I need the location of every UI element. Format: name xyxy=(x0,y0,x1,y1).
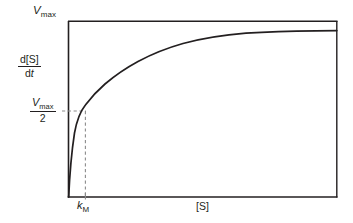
michaelis-menten-figure: Vmax d[S] dt Vmax 2 kM [S] xyxy=(0,0,353,223)
y-axis-title: d[S] dt xyxy=(18,54,41,78)
vmax-subscript: max xyxy=(41,10,56,19)
reference-lines xyxy=(62,111,86,200)
y-axis-half-max-label: Vmax 2 xyxy=(30,97,56,124)
y-axis-title-numerator: d[S] xyxy=(18,54,41,67)
y-axis-title-denominator: dt xyxy=(18,67,41,79)
curve-path xyxy=(69,31,337,197)
saturation-curve xyxy=(69,31,337,197)
y-axis-max-label: Vmax xyxy=(33,5,56,19)
vmax-symbol: V xyxy=(33,4,41,16)
x-axis-title: [S] xyxy=(196,201,209,212)
half-max-subscript: max xyxy=(39,102,53,111)
x-axis-km-label: kM xyxy=(77,200,89,214)
plot-frame xyxy=(68,21,338,198)
half-max-denominator: 2 xyxy=(30,112,56,124)
km-subscript: M xyxy=(83,205,90,214)
half-max-numerator: Vmax xyxy=(30,97,56,112)
y-axis-title-den-t: t xyxy=(31,67,34,79)
